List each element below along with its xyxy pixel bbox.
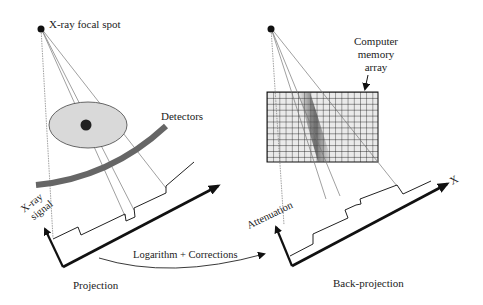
focal-spot-icon bbox=[38, 26, 45, 33]
back-projection-panel: Computer memory array X Attenuation Back… bbox=[245, 26, 460, 290]
svg-text:memory: memory bbox=[358, 48, 395, 60]
x-axis-label: X bbox=[447, 172, 460, 186]
projection-caption: Projection bbox=[73, 279, 119, 291]
attenuation-profile bbox=[290, 181, 431, 256]
logarithm-corrections-label: Logarithm + Corrections bbox=[133, 249, 237, 260]
svg-text:array: array bbox=[365, 61, 388, 73]
x-ray-signal-profile bbox=[53, 162, 194, 239]
focal-spot-icon-right bbox=[268, 26, 275, 33]
focal-spot-label: X-ray focal spot bbox=[49, 18, 120, 30]
computer-memory-label: Computer memory array bbox=[354, 35, 398, 73]
logarithm-corrections-arrow: Logarithm + Corrections bbox=[99, 249, 264, 268]
detectors-label: Detectors bbox=[161, 110, 203, 122]
ct-reconstruction-diagram: X-ray focal spot Detectors X-ray signal … bbox=[0, 0, 483, 305]
attenuation-label: Attenuation bbox=[245, 199, 295, 231]
back-projection-axes bbox=[276, 184, 447, 266]
back-projection-caption: Back-projection bbox=[333, 277, 404, 289]
dense-object-dot bbox=[81, 120, 92, 131]
svg-text:Computer: Computer bbox=[354, 35, 398, 47]
memory-pointer-arrow bbox=[365, 75, 368, 89]
